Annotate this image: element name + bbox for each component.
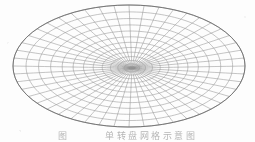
mesh-spoke (132, 68, 187, 119)
caption-prefix: 图 (58, 131, 70, 142)
figure-caption: 图 单转盘网格示意图 (0, 131, 255, 142)
caption-text: 单转盘网格示意图 (105, 131, 197, 142)
radial-spokes-group (13, 5, 245, 127)
mesh-spoke (132, 50, 241, 68)
elliptical-polar-mesh-figure (0, 0, 255, 142)
mesh-spoke (99, 7, 132, 68)
mesh-spoke (132, 68, 211, 109)
mesh-spoke (71, 68, 132, 119)
figure-page: 图 单转盘网格示意图 (0, 0, 255, 142)
mesh-spoke (47, 68, 132, 109)
mesh-spoke (22, 43, 132, 68)
mesh-spoke (17, 68, 132, 82)
mesh-spoke (99, 68, 132, 125)
